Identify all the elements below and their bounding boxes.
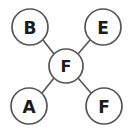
node-label-bottom-left: A bbox=[22, 97, 36, 117]
edge-center-to-f bbox=[78, 78, 91, 93]
node-top-right[interactable]: E bbox=[85, 9, 121, 45]
graph-canvas: B E A F F bbox=[0, 0, 132, 133]
node-label-top-right: E bbox=[97, 18, 109, 38]
node-center[interactable]: F bbox=[49, 49, 83, 83]
node-bottom-right[interactable]: F bbox=[86, 88, 122, 124]
node-bottom-left[interactable]: A bbox=[11, 88, 47, 124]
node-top-left[interactable]: B bbox=[12, 9, 48, 45]
node-label-center: F bbox=[61, 57, 72, 76]
edge-center-to-e bbox=[78, 40, 90, 54]
node-label-bottom-right: F bbox=[98, 97, 110, 117]
edge-center-to-a bbox=[42, 78, 54, 93]
node-label-top-left: B bbox=[24, 18, 37, 38]
graph-diagram: B E A F F bbox=[0, 0, 132, 133]
edge-center-to-b bbox=[43, 40, 54, 54]
